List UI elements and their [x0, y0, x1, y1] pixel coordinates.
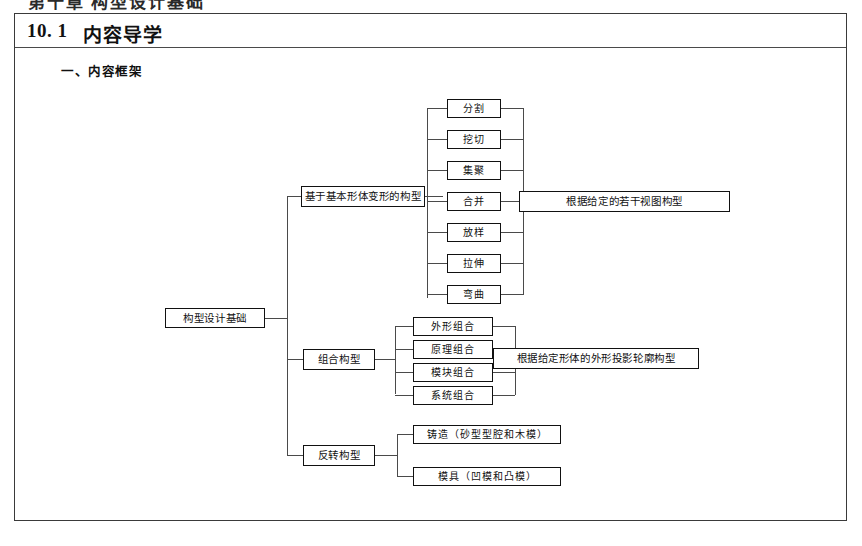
connector-branch-1-child-7-in — [427, 294, 447, 295]
cut-off-chapter-title: 第十章 构型设计基础 — [0, 0, 862, 11]
node-branch-1-child-4: 合并 — [447, 192, 501, 211]
connector-branch-3-out — [375, 455, 397, 456]
node-branch-1-child-4-label: 合并 — [463, 197, 485, 207]
connector-branch-1-child-7-out — [501, 294, 523, 295]
connector-branch-1-child-2-out — [501, 139, 523, 140]
node-branch-3-child-2: 模具（凹模和凸模） — [413, 467, 561, 486]
node-branch-2-child-2-label: 原理组合 — [431, 345, 475, 355]
connector-branch-1-child-5-in — [427, 232, 447, 233]
node-branch-2-result-label: 根据给定形体的外形投影轮廓构型 — [517, 353, 676, 364]
connector-branch-1-child-4-in — [427, 201, 447, 202]
node-branch-3-child-2-label: 模具（凹模和凸模） — [438, 472, 537, 482]
node-branch-2-child-1-label: 外形组合 — [431, 322, 475, 332]
connector-branch-2-child-2-in — [395, 349, 413, 350]
node-branch-3-child-1-label: 铸造（砂型型腔和木模） — [427, 430, 548, 440]
node-branch-1-child-3-label: 集聚 — [463, 166, 485, 176]
node-branch-2-label: 组合构型 — [318, 354, 360, 365]
connector-branch-2-child-3-in — [395, 372, 413, 373]
connector-branch-2-child-1-out — [493, 326, 515, 327]
page-frame: 10. 1 内容导学 一、内容框架 构型设计基础 基于基本形体变形的构型 分割 — [14, 13, 847, 521]
node-branch-3-label: 反转构型 — [318, 450, 360, 461]
content-framework-diagram: 构型设计基础 基于基本形体变形的构型 分割 挖切 集聚 — [15, 14, 848, 522]
connector-branch-1-left-bus — [427, 108, 428, 298]
connector-spine-branch-3 — [287, 455, 303, 456]
node-branch-3-child-1: 铸造（砂型型腔和木模） — [413, 425, 561, 444]
connector-branch-1-child-6-out — [501, 263, 523, 264]
connector-branch-2-left-bus — [395, 326, 396, 394]
node-branch-1-child-2: 挖切 — [447, 130, 501, 149]
node-branch-1-child-1-label: 分割 — [463, 104, 485, 114]
node-branch-1-result-label: 根据给定的若干视图构型 — [566, 196, 683, 207]
node-branch-2-child-1: 外形组合 — [413, 317, 493, 336]
connector-spine-branch-2 — [287, 359, 303, 360]
node-branch-2-child-2: 原理组合 — [413, 340, 493, 359]
node-branch-1-child-1: 分割 — [447, 99, 501, 118]
node-branch-1-label: 基于基本形体变形的构型 — [305, 191, 422, 202]
node-branch-2: 组合构型 — [303, 349, 375, 370]
connector-branch-3-child-1-in — [397, 434, 413, 435]
connector-branch-2-child-4-in — [395, 395, 413, 396]
node-branch-2-child-3-label: 模块组合 — [431, 368, 475, 378]
connector-branch-1-child-3-out — [501, 170, 523, 171]
connector-branch-1-child-3-in — [427, 170, 447, 171]
node-branch-1-child-3: 集聚 — [447, 161, 501, 180]
node-root: 构型设计基础 — [165, 308, 265, 328]
node-root-label: 构型设计基础 — [183, 313, 247, 324]
connector-branch-1-child-1-out — [501, 108, 523, 109]
node-branch-1-child-7-label: 弯曲 — [463, 290, 485, 300]
connector-branch-2-child-4-out — [493, 395, 515, 396]
connector-branch-1-child-5-out — [501, 232, 523, 233]
cut-off-chapter-title-text: 第十章 构型设计基础 — [28, 0, 205, 11]
node-branch-1-child-6-label: 拉伸 — [463, 259, 485, 269]
node-branch-1-child-6: 拉伸 — [447, 254, 501, 273]
connector-branch-1-child-2-in — [427, 139, 447, 140]
node-branch-2-child-4: 系统组合 — [413, 386, 493, 405]
connector-branch-2-child-3-out — [493, 372, 515, 373]
node-branch-2-child-3: 模块组合 — [413, 363, 493, 382]
connector-branch-2-child-1-in — [395, 326, 413, 327]
node-branch-1-child-5: 放样 — [447, 223, 501, 242]
connector-branch-3-child-2-in — [397, 476, 413, 477]
node-branch-1-child-5-label: 放样 — [463, 228, 485, 238]
connector-branch-1-child-6-in — [427, 263, 447, 264]
node-branch-2-child-4-label: 系统组合 — [431, 391, 475, 401]
connector-root-out — [265, 318, 287, 319]
connector-root-spine — [287, 196, 288, 455]
node-branch-1: 基于基本形体变形的构型 — [301, 186, 425, 207]
connector-branch-1-child-1-in — [427, 108, 447, 109]
node-branch-1-result: 根据给定的若干视图构型 — [519, 191, 730, 212]
node-branch-2-result: 根据给定形体的外形投影轮廓构型 — [493, 348, 699, 369]
connector-spine-branch-1 — [287, 196, 301, 197]
connector-branch-3-bus — [397, 434, 398, 477]
connector-branch-2-out — [375, 359, 395, 360]
node-branch-1-child-7: 弯曲 — [447, 285, 501, 304]
node-branch-3: 反转构型 — [303, 445, 375, 466]
node-branch-1-child-2-label: 挖切 — [463, 135, 485, 145]
